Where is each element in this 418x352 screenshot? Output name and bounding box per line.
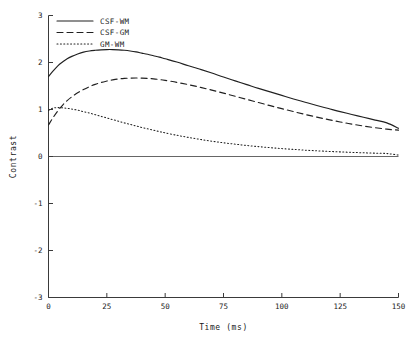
y-tick-label: 3: [38, 11, 43, 20]
y-tick-label: 0: [38, 152, 43, 161]
y-tick-label: 2: [38, 58, 43, 67]
data-series-group: [49, 50, 399, 156]
x-tick-label: 25: [102, 302, 111, 311]
y-tick-label: -2: [33, 246, 42, 255]
series-line-gm-wm: [49, 108, 399, 155]
legend-label-csf-wm: CSF-WM: [100, 17, 130, 26]
series-line-csf-gm: [49, 78, 399, 130]
y-tick-label: 1: [38, 105, 43, 114]
x-tick-label: 100: [275, 302, 289, 311]
chart-legend: CSF-WMCSF-GMGM-WM: [57, 17, 130, 49]
y-tick-label: -1: [33, 199, 42, 208]
x-tick-label: 50: [161, 302, 171, 311]
x-tick-label: 150: [392, 302, 406, 311]
y-axis-label: Contrast: [9, 135, 18, 178]
legend-label-gm-wm: GM-WM: [100, 40, 125, 49]
x-axis-label: Time (ms): [199, 323, 248, 332]
y-tick-label: -3: [33, 293, 42, 302]
line-chart-plot: 3210-1-2-30255075100125150 CSF-WMCSF-GMG…: [0, 0, 418, 352]
x-tick-label: 75: [219, 302, 228, 311]
chart-figure: 3210-1-2-30255075100125150 CSF-WMCSF-GMG…: [0, 0, 418, 352]
legend-label-csf-gm: CSF-GM: [100, 28, 130, 37]
axis-titles-group: Time (ms) Contrast: [9, 135, 248, 332]
x-tick-label: 0: [46, 302, 51, 311]
x-tick-label: 125: [333, 302, 347, 311]
tick-labels-group: 3210-1-2-30255075100125150: [33, 11, 405, 310]
